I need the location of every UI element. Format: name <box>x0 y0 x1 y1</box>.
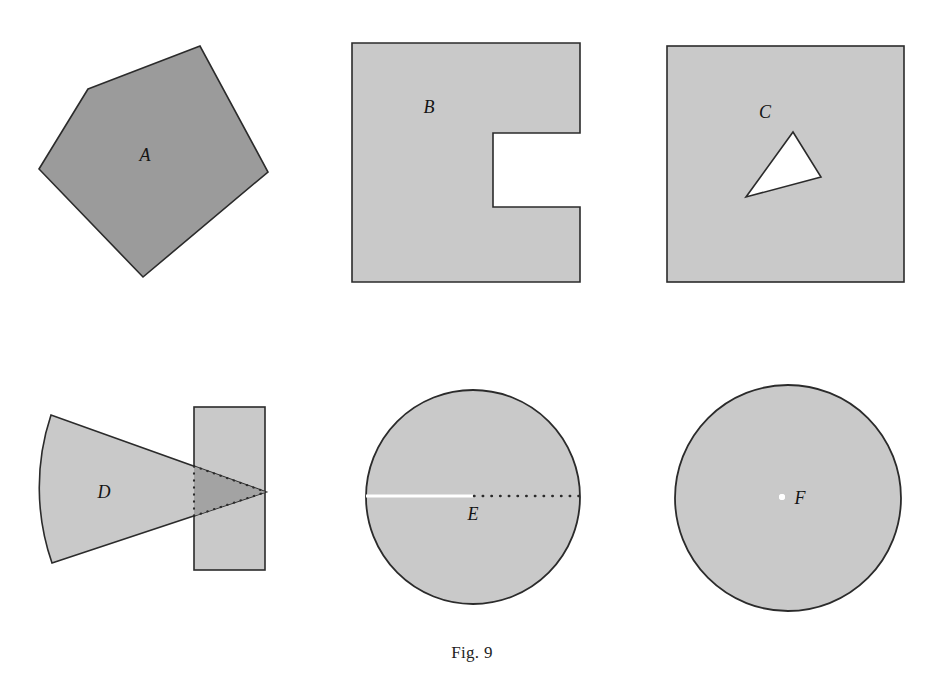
shape-e-group: E <box>366 390 580 604</box>
shape-b-c-shape <box>352 43 580 282</box>
figure-canvas: A B C D <box>0 0 944 691</box>
shape-f-disc <box>675 385 901 611</box>
shape-f-label: F <box>794 488 807 508</box>
shape-b-label: B <box>424 97 435 117</box>
figure-container: A B C D <box>0 0 944 691</box>
shape-f-group: F <box>675 385 901 611</box>
shape-a-pentagon <box>39 46 268 277</box>
shape-d-label: D <box>97 482 111 502</box>
figure-caption: Fig. 9 <box>0 643 944 663</box>
shape-e-label: E <box>467 504 479 524</box>
shape-a-group: A <box>39 46 268 277</box>
shape-c-label: C <box>759 102 772 122</box>
shape-f-center-puncture <box>779 494 785 500</box>
shape-d-group: D <box>39 407 266 570</box>
shape-c-group: C <box>667 46 904 282</box>
shape-a-label: A <box>139 145 152 165</box>
shape-b-group: B <box>352 43 580 282</box>
